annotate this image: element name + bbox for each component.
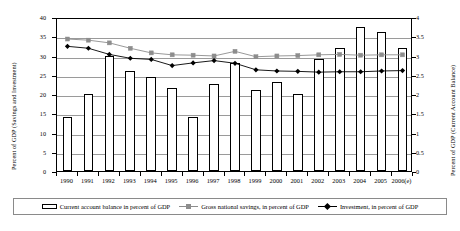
series-marker (65, 37, 69, 41)
right-axis-tick-label: 0.5 (416, 150, 442, 156)
series-marker (317, 53, 321, 57)
left-axis-tick-label: 15 (16, 111, 46, 117)
series-marker (401, 53, 405, 57)
series-marker (316, 70, 321, 75)
left-axis-tick-label: 0 (16, 169, 46, 175)
series-marker (170, 63, 175, 68)
x-axis-tick-label: 2005 (374, 177, 387, 185)
series-marker (191, 60, 196, 65)
right-axis-tick-label: 4 (416, 15, 442, 21)
x-axis-tick-label: 1990 (60, 177, 73, 185)
series-marker (358, 69, 363, 74)
right-axis-tick-label: 1.5 (416, 111, 442, 117)
x-axis-tick-label: 1995 (165, 177, 178, 185)
series-marker (359, 53, 363, 57)
series-marker (254, 55, 258, 59)
legend-diamond-marker-icon (318, 203, 337, 210)
series-marker (65, 44, 70, 49)
left-axis-tick-label: 40 (16, 15, 46, 21)
x-axis-tick-label: 1996 (186, 177, 199, 185)
x-axis-tick-label: 2002 (311, 177, 324, 185)
series-marker (211, 58, 216, 63)
x-axis-tick-label: 1999 (249, 177, 262, 185)
line-series-layer (57, 19, 413, 173)
x-axis-tick-label: 2000 (269, 177, 282, 185)
series-marker (128, 56, 133, 61)
plot-inner (57, 19, 411, 171)
legend-item: Current account balance in percent of GD… (42, 203, 170, 210)
right-axis-tick-label: 0 (416, 169, 442, 175)
legend-item: Gross national savings, in percent of GD… (179, 203, 309, 210)
left-axis-tick-label: 10 (16, 131, 46, 137)
legend-item: Investment, in percent of GDP (318, 203, 418, 210)
series-marker (253, 67, 258, 72)
series-marker (232, 61, 237, 66)
legend-item-label: Gross national savings, in percent of GD… (201, 203, 309, 210)
series-marker (86, 38, 90, 42)
x-axis-tick-label: 2004 (353, 177, 366, 185)
series-marker (338, 52, 342, 56)
series-marker (233, 49, 237, 53)
series-marker (212, 54, 216, 58)
legend-item-label: Investment, in percent of GDP (340, 203, 418, 210)
left-axis-tick-label: 30 (16, 54, 46, 60)
series-marker (149, 51, 153, 55)
x-axis-tick-label: 2003 (332, 177, 345, 185)
right-axis-tick-label: 3.5 (416, 34, 442, 40)
series-marker (191, 53, 195, 57)
legend-square-marker-icon (179, 203, 198, 210)
series-marker (295, 69, 300, 74)
series-marker (128, 46, 132, 50)
x-axis-tick-label: 1992 (102, 177, 115, 185)
plot-area (56, 18, 412, 172)
series-line (67, 39, 402, 57)
right-axis-tick-label: 3 (416, 54, 442, 60)
left-axis-tick-label: 20 (16, 92, 46, 98)
legend-bar-swatch-icon (42, 204, 57, 209)
series-marker (86, 46, 91, 51)
chart-legend: Current account balance in percent of GD… (13, 198, 447, 215)
right-axis-title: Percent of GDP (Current Account Balance) (449, 65, 456, 176)
x-axis-tick-label: 1997 (207, 177, 220, 185)
series-marker (107, 52, 112, 57)
left-axis-tick-label: 5 (16, 150, 46, 156)
x-axis-tick-label: 2006(e) (392, 177, 412, 185)
series-marker (379, 68, 384, 73)
series-marker (274, 68, 279, 73)
series-marker (296, 54, 300, 58)
line-series (65, 44, 405, 75)
chart-container: Percent of GDP (Savings and Investment) … (0, 0, 460, 231)
left-axis-tick-label: 25 (16, 73, 46, 79)
series-marker (380, 53, 384, 57)
series-marker (337, 69, 342, 74)
x-axis-tick-label: 1993 (123, 177, 136, 185)
x-axis-tick-label: 2001 (290, 177, 303, 185)
series-marker (275, 54, 279, 58)
x-axis-tick-label: 1991 (81, 177, 94, 185)
legend-item-label: Current account balance in percent of GD… (60, 203, 170, 210)
series-marker (107, 41, 111, 45)
series-marker (400, 68, 405, 73)
right-axis-tick-label: 2.5 (416, 73, 442, 79)
x-axis-tick-label: 1994 (144, 177, 157, 185)
left-axis-tick-label: 35 (16, 34, 46, 40)
right-axis-tick-label: 2 (416, 92, 442, 98)
x-axis-tick-label: 1998 (228, 177, 241, 185)
series-marker (149, 57, 154, 62)
series-marker (170, 53, 174, 57)
right-axis-tick-label: 1 (416, 131, 442, 137)
